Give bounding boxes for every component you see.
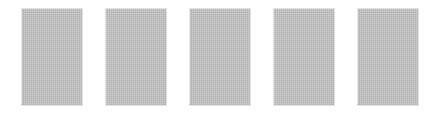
thumbnail-5[interactable]: [358, 9, 418, 105]
thumbnail-1[interactable]: [22, 9, 82, 105]
thumbnail-strip: [0, 0, 436, 116]
thumbnail-2[interactable]: [106, 9, 166, 105]
thumbnail-4[interactable]: [274, 9, 334, 105]
thumbnail-3[interactable]: [190, 9, 250, 105]
